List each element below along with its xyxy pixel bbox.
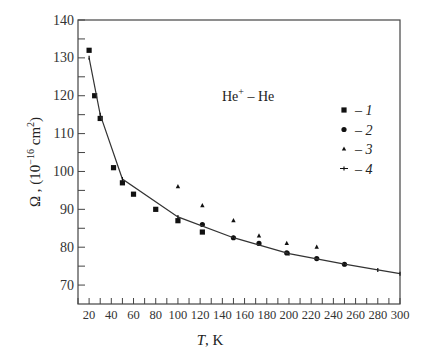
legend-label: – 2 [354, 123, 373, 138]
x-tick-label: 140 [213, 308, 232, 322]
y-tick-label: 130 [53, 50, 74, 65]
square-marker [341, 107, 346, 112]
x-tick-label: 40 [105, 308, 118, 322]
chart: 2040608010012014016018020022024026028030… [0, 0, 430, 356]
x-tick-label: 240 [324, 308, 343, 322]
triangle-marker [285, 241, 289, 245]
x-tick-label: 200 [280, 308, 299, 322]
y-axis-label: Ω , (10−16 cm2) [25, 117, 44, 207]
series-3 [176, 184, 319, 249]
triangle-marker [231, 218, 235, 222]
x-axis-ticks: 2040608010012014016018020022024026028030… [78, 298, 409, 322]
square-marker [87, 48, 92, 53]
y-tick-label: 70 [60, 278, 74, 293]
square-marker [111, 165, 116, 170]
legend-item-3: – 3 [342, 142, 373, 157]
x-tick-label: 80 [149, 308, 162, 322]
series-1 [87, 48, 205, 235]
y-axis-ticks: 708090100110120130140 [53, 13, 85, 293]
x-tick-label: 160 [235, 308, 254, 322]
legend-item-1: – 1 [341, 103, 372, 118]
triangle-marker [342, 146, 346, 150]
legend: – 1– 2– 3– 4 [340, 103, 373, 177]
x-tick-label: 220 [302, 308, 321, 322]
x-tick-label: 20 [83, 308, 96, 322]
square-marker [153, 207, 158, 212]
x-tick-label: 180 [257, 308, 276, 322]
square-marker [200, 229, 205, 234]
y-tick-label: 80 [60, 240, 74, 255]
triangle-marker [176, 184, 180, 188]
chart-annotation: He+ – He [222, 86, 274, 104]
legend-label: – 1 [354, 103, 373, 118]
y-tick-label: 100 [53, 164, 74, 179]
x-axis-label: T, K [197, 332, 224, 348]
triangle-marker [200, 203, 204, 207]
x-tick-label: 300 [391, 308, 410, 322]
plot-area-border [78, 20, 400, 304]
x-tick-label: 60 [127, 308, 140, 322]
data-series [87, 48, 400, 276]
y-tick-label: 140 [53, 13, 74, 28]
x-tick-label: 260 [346, 308, 365, 322]
legend-item-2: – 2 [341, 123, 372, 138]
x-tick-label: 120 [191, 308, 210, 322]
triangle-marker [315, 245, 319, 249]
square-marker [131, 192, 136, 197]
legend-label: – 4 [354, 162, 373, 177]
legend-label: – 3 [354, 142, 373, 157]
y-tick-label: 110 [54, 126, 74, 141]
y-tick-label: 120 [53, 88, 74, 103]
legend-item-4: – 4 [340, 162, 373, 177]
triangle-marker [257, 233, 261, 237]
circle-marker [341, 127, 346, 132]
x-tick-label: 280 [368, 308, 387, 322]
y-tick-label: 90 [60, 202, 74, 217]
x-tick-label: 100 [169, 308, 188, 322]
plot-frame [78, 20, 400, 304]
